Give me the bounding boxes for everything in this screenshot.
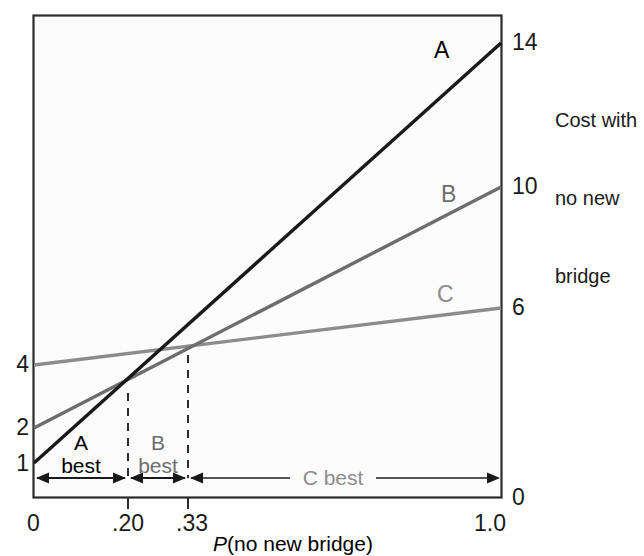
x-axis-title: P(no new bridge)	[213, 533, 373, 554]
region-label-a-best: best	[61, 455, 101, 476]
y-right-tick-14: 14	[512, 31, 538, 54]
right-caption: Cost with no new bridge	[555, 55, 637, 341]
x-tick-label-33: .33	[176, 512, 208, 535]
x-axis-title-variable: P	[213, 532, 227, 555]
cost-comparison-chart: 4 2 1 14 10 6 0 0 .20 .33 1.0 P(no new b…	[0, 0, 644, 556]
right-caption-line-2: no new	[555, 185, 637, 211]
x-axis-title-rest: (no new bridge)	[227, 532, 373, 555]
x-tick-label-0: 0	[27, 512, 40, 535]
region-label-b-name: B	[151, 432, 165, 453]
y-right-tick-6: 6	[512, 296, 525, 319]
y-left-tick-1: 1	[16, 452, 29, 475]
region-label-c-best: C best	[303, 467, 364, 488]
series-label-c: C	[437, 283, 454, 306]
plot-frame	[34, 16, 502, 498]
y-right-tick-10: 10	[512, 175, 538, 198]
series-label-b: B	[441, 183, 456, 206]
y-left-tick-2: 2	[16, 416, 29, 439]
y-left-tick-4: 4	[16, 353, 29, 376]
y-right-tick-0: 0	[512, 486, 525, 509]
right-caption-line-3: bridge	[555, 263, 637, 289]
region-label-a-name: A	[74, 432, 88, 453]
x-tick-label-100: 1.0	[474, 512, 506, 535]
series-label-a: A	[434, 39, 449, 62]
right-caption-line-1: Cost with	[555, 107, 637, 133]
region-label-b-best: best	[138, 455, 178, 476]
x-tick-label-20: .20	[112, 512, 144, 535]
